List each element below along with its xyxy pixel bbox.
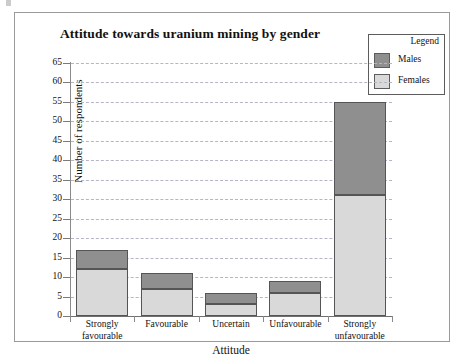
bar-segment-females[interactable] [141, 289, 193, 316]
y-axis-tick [63, 297, 70, 298]
bar-segment-females[interactable] [76, 269, 128, 316]
x-axis-tick-label-line: favourable [70, 331, 134, 343]
x-axis-title: Attitude [70, 344, 392, 356]
x-axis-tick-label-line: Unfavourable [263, 319, 327, 331]
y-axis-tick [63, 316, 70, 317]
y-axis-tick [63, 180, 70, 181]
bar-uncertain[interactable] [205, 293, 257, 316]
bar-segment-males[interactable] [76, 250, 128, 269]
y-axis-tick-label: 15 [40, 253, 62, 263]
bar-unfavourable[interactable] [269, 281, 321, 316]
y-axis-line [70, 62, 71, 317]
y-axis-tick-label: 35 [40, 175, 62, 185]
bar-segment-males[interactable] [334, 102, 386, 195]
x-axis-tick-label: Uncertain [199, 319, 263, 331]
scan-artifact-speck [6, 0, 11, 6]
y-axis-tick-label: 65 [40, 58, 62, 68]
x-axis-tick-label: Stronglyunfavourable [328, 319, 392, 342]
y-axis-tick-label: 20 [40, 233, 62, 243]
y-axis-tick [63, 160, 70, 161]
y-axis-tick [63, 238, 70, 239]
y-axis-tick-label: 45 [40, 136, 62, 146]
y-axis-tick-label: 5 [40, 292, 62, 302]
legend-label-females: Females [398, 75, 430, 85]
y-axis-tick-labels: 05101520253035404550556065 [40, 62, 62, 318]
y-axis-tick-label: 10 [40, 272, 62, 282]
y-axis-tick-label: 0 [40, 311, 62, 321]
x-axis-tick-label-line: Uncertain [199, 319, 263, 331]
x-axis-tick-label: Favourable [134, 319, 198, 331]
chart-title: Attitude towards uranium mining by gende… [15, 26, 365, 42]
x-axis-tick-label-line: unfavourable [328, 331, 392, 343]
x-axis-tick [392, 316, 393, 322]
y-axis-tick [63, 82, 70, 83]
y-axis-tick-label: 55 [40, 97, 62, 107]
y-axis-tick [63, 121, 70, 122]
y-axis-tick [63, 277, 70, 278]
y-axis-tick [63, 219, 70, 220]
x-axis-tick-label: Unfavourable [263, 319, 327, 331]
y-axis-tick [63, 141, 70, 142]
bar-favourable[interactable] [141, 273, 193, 316]
x-axis-line [70, 316, 392, 317]
x-axis-tick-label-line: Strongly [328, 319, 392, 331]
y-axis-tick-label: 25 [40, 214, 62, 224]
gridline [71, 63, 392, 64]
bar-segment-males[interactable] [205, 293, 257, 305]
y-axis-tick-label: 30 [40, 194, 62, 204]
y-axis-tick-label: 50 [40, 116, 62, 126]
legend-label-males: Males [398, 54, 421, 64]
plot-area [70, 62, 392, 317]
gridline [71, 82, 392, 83]
legend-title: Legend [411, 36, 440, 46]
y-axis-tick-label: 40 [40, 155, 62, 165]
bar-strongly-unfavourable[interactable] [334, 102, 386, 316]
bar-segment-males[interactable] [141, 273, 193, 289]
chart-figure-frame: Attitude towards uranium mining by gende… [14, 12, 450, 342]
y-axis-tick-label: 60 [40, 77, 62, 87]
bar-strongly-favourable[interactable] [76, 250, 128, 316]
bar-segment-females[interactable] [269, 293, 321, 316]
y-axis-tick [63, 63, 70, 64]
x-axis-tick-label-line: Strongly [70, 319, 134, 331]
x-axis-tick-label: Stronglyfavourable [70, 319, 134, 342]
y-axis-tick [63, 199, 70, 200]
bar-segment-females[interactable] [334, 195, 386, 316]
y-axis-tick [63, 258, 70, 259]
bar-segment-females[interactable] [205, 304, 257, 316]
y-axis-tick [63, 102, 70, 103]
bar-segment-males[interactable] [269, 281, 321, 293]
x-axis-tick-label-line: Favourable [134, 319, 198, 331]
